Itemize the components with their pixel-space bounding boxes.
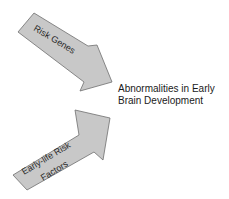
early-life-risk-factors-arrow: Early-life Risk Factors xyxy=(13,110,110,190)
risk-genes-arrow: Risk Genes xyxy=(18,13,112,91)
risk-genes-arrow-shape xyxy=(18,13,112,91)
outcome-label-line-2: Brain Development xyxy=(118,95,215,107)
outcome-label-line-1: Abnormalities in Early xyxy=(118,83,215,95)
outcome-label: Abnormalities in Early Brain Development xyxy=(118,83,215,107)
diagram-canvas: Risk Genes Early-life Risk Factors Abnor… xyxy=(0,0,229,199)
